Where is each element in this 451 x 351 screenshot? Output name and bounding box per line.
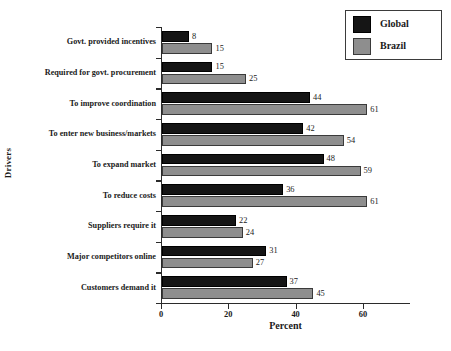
bar-brazil <box>162 166 361 177</box>
x-axis-tick <box>363 304 364 309</box>
bar-value-label: 54 <box>347 136 355 145</box>
bar-global <box>162 184 283 195</box>
x-axis-tick <box>296 304 297 309</box>
bar-value-label: 15 <box>215 62 223 71</box>
bar-value-label: 36 <box>286 185 294 194</box>
x-axis-tick-label: 20 <box>216 310 240 319</box>
bar-value-label: 31 <box>269 246 277 255</box>
category-label: Required for govt. procurement <box>14 68 156 77</box>
x-axis-title: Percent <box>161 320 410 331</box>
x-axis-line <box>161 303 410 304</box>
bar-value-label: 37 <box>290 277 298 286</box>
category-label: To improve coordination <box>14 99 156 108</box>
x-axis-tick <box>228 304 229 309</box>
bar-value-label: 25 <box>249 74 257 83</box>
legend-swatch-global <box>353 16 371 33</box>
x-axis-tick-label: 0 <box>149 310 173 319</box>
bar-brazil <box>162 288 313 299</box>
bar-brazil <box>162 135 344 146</box>
bar-brazil <box>162 43 212 54</box>
legend-swatch-brazil <box>353 38 371 55</box>
x-axis-tick <box>161 304 162 309</box>
legend-label: Brazil <box>380 40 406 51</box>
bar-value-label: 27 <box>256 258 264 267</box>
bar-brazil <box>162 74 246 85</box>
bar-global <box>162 62 212 73</box>
bar-brazil <box>162 104 367 115</box>
bar-value-label: 24 <box>246 228 254 237</box>
category-label: To expand market <box>14 160 156 169</box>
category-label: To enter new business/markets <box>14 129 156 138</box>
bar-value-label: 48 <box>327 154 335 163</box>
bar-value-label: 44 <box>313 93 321 102</box>
bar-global <box>162 92 310 103</box>
bar-value-label: 15 <box>215 44 223 53</box>
bar-value-label: 61 <box>370 105 378 114</box>
y-axis-tick <box>156 150 161 151</box>
y-axis-tick <box>156 180 161 181</box>
bar-value-label: 8 <box>192 32 196 41</box>
bar-global <box>162 154 324 165</box>
bar-global <box>162 276 287 287</box>
bar-brazil <box>162 258 253 269</box>
bar-brazil <box>162 227 243 238</box>
bar-value-label: 61 <box>370 197 378 206</box>
category-axis-labels: Govt. provided incentivesRequired for go… <box>14 27 156 303</box>
x-axis-tick-label: 60 <box>351 310 375 319</box>
y-axis-tick <box>156 119 161 120</box>
bar-value-label: 22 <box>239 216 247 225</box>
bar-value-label: 42 <box>306 124 314 133</box>
bar-value-label: 45 <box>316 289 324 298</box>
y-axis-tick <box>156 242 161 243</box>
y-axis-tick <box>156 27 161 28</box>
y-axis-title: Drivers <box>3 133 13 193</box>
y-axis-tick <box>156 88 161 89</box>
bar-chart: Drivers Govt. provided incentivesRequire… <box>0 0 451 351</box>
y-axis-tick <box>156 58 161 59</box>
bar-value-label: 59 <box>364 166 372 175</box>
bar-brazil <box>162 196 367 207</box>
category-label: Major competitors online <box>14 252 156 261</box>
plot-area: 0204060 81515254461425448593661222431273… <box>161 27 410 303</box>
category-label: Customers demand it <box>14 283 156 292</box>
y-axis-tick <box>156 211 161 212</box>
bar-global <box>162 31 189 42</box>
bar-global <box>162 215 236 226</box>
chart-legend: GlobalBrazil <box>345 10 442 60</box>
bar-global <box>162 123 303 134</box>
x-axis-tick-label: 40 <box>284 310 308 319</box>
category-label: Suppliers require it <box>14 221 156 230</box>
category-label: Govt. provided incentives <box>14 37 156 46</box>
bar-global <box>162 246 266 257</box>
legend-label: Global <box>380 18 409 29</box>
y-axis-tick <box>156 272 161 273</box>
category-label: To reduce costs <box>14 191 156 200</box>
